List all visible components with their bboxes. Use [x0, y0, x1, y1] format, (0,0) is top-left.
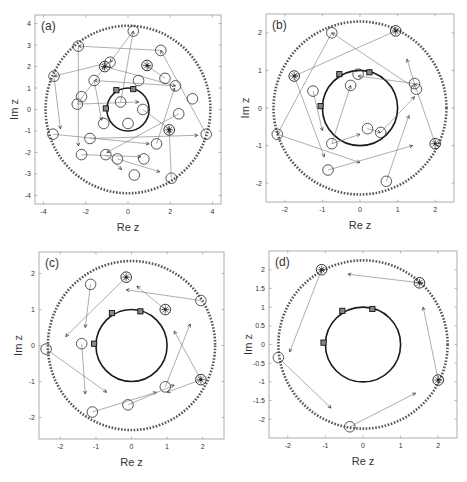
panel-b: -2-1012-2-1012Re zIm z(b) [239, 14, 454, 231]
y-tick-label: 1 [258, 67, 262, 74]
x-tick-label: -2 [57, 443, 63, 450]
asterisk-center [103, 65, 106, 68]
y-tick-label: 0 [31, 342, 35, 349]
y-tick-label: -2 [29, 414, 35, 421]
axes-box [269, 251, 457, 438]
y-tick-label: 4 [27, 20, 31, 27]
y-tick-label: 1 [31, 306, 35, 313]
y-axis-label: Im z [8, 99, 20, 120]
asterisk-center [418, 281, 421, 284]
y-tick-label: 1 [261, 304, 265, 311]
square-marker [318, 104, 323, 109]
axes-box [266, 14, 454, 202]
y-tick-label: 2 [258, 29, 262, 36]
asterisk-center [168, 129, 171, 132]
asterisk-center [320, 268, 323, 271]
x-tick-label: 0 [358, 206, 362, 213]
square-marker [92, 341, 97, 346]
asterisk-center [293, 75, 296, 78]
panel-c: -2-1012-2-1012Re zIm z(c) [12, 252, 224, 468]
y-tick-label: -0.5 [253, 360, 265, 367]
square-marker [131, 86, 136, 91]
x-tick-label: -1 [319, 206, 325, 213]
asterisk-center [125, 276, 128, 279]
panel-label: (b) [272, 18, 287, 32]
x-tick-label: -2 [285, 442, 291, 449]
panel-a: -4-2024-4-3-2-101234Re zIm z(a) [8, 15, 221, 233]
asterisk-center [394, 30, 397, 33]
y-tick-label: -1 [25, 127, 31, 134]
x-axis-label: Re z [349, 219, 372, 231]
square-marker [103, 106, 108, 111]
y-tick-label: -2 [256, 180, 262, 187]
asterisk-center [434, 142, 437, 145]
square-marker [340, 308, 345, 313]
y-tick-label: 0 [261, 341, 265, 348]
asterisk-center [164, 308, 167, 311]
y-tick-label: -2 [259, 416, 265, 423]
x-axis-label: Re z [120, 456, 143, 468]
x-tick-label: 2 [168, 208, 172, 215]
y-tick-label: 0.5 [255, 322, 265, 329]
axes-box [39, 252, 224, 439]
y-tick-label: -2 [25, 149, 31, 156]
x-axis-label: Re z [352, 455, 375, 467]
y-tick-label: 0 [258, 105, 262, 112]
y-tick-label: -1 [259, 378, 265, 385]
x-tick-label: 0 [130, 443, 134, 450]
x-tick-label: 0 [361, 442, 365, 449]
figure: -4-2024-4-3-2-101234Re zIm z(a) -2-1012-… [0, 0, 467, 482]
y-tick-label: -3 [25, 170, 31, 177]
y-axis-label: Im z [242, 334, 254, 355]
y-axis-label: Im z [12, 335, 24, 356]
square-marker [109, 311, 114, 316]
y-tick-label: -1 [256, 142, 262, 149]
x-tick-label: 1 [399, 442, 403, 449]
square-marker [337, 72, 342, 77]
y-tick-label: 0 [27, 106, 31, 113]
y-tick-label: 3 [27, 42, 31, 49]
x-tick-label: -2 [83, 208, 89, 215]
x-tick-label: 1 [165, 443, 169, 450]
y-tick-label: -4 [25, 192, 31, 199]
x-tick-label: 0 [126, 208, 130, 215]
y-tick-label: -1 [29, 378, 35, 385]
x-tick-label: 2 [433, 206, 437, 213]
y-axis-label: Im z [239, 98, 251, 119]
panel-label: (c) [45, 256, 59, 270]
y-tick-label: 2 [27, 63, 31, 70]
asterisk-center [200, 378, 203, 381]
y-tick-label: 1.5 [255, 285, 265, 292]
x-tick-label: -1 [322, 442, 328, 449]
y-tick-label: 2 [261, 266, 265, 273]
asterisk-center [437, 379, 440, 382]
square-marker [367, 70, 372, 75]
x-tick-label: -1 [93, 443, 99, 450]
panel-label: (d) [275, 255, 290, 269]
x-tick-label: 4 [211, 208, 215, 215]
x-tick-label: 2 [436, 442, 440, 449]
asterisk-center [146, 64, 149, 67]
square-marker [370, 306, 375, 311]
x-tick-label: 1 [396, 206, 400, 213]
square-marker [114, 88, 119, 93]
y-tick-label: -1.5 [253, 397, 265, 404]
x-tick-label: 2 [201, 443, 205, 450]
y-tick-label: 1 [27, 85, 31, 92]
x-tick-label: -2 [282, 206, 288, 213]
square-marker [321, 340, 326, 345]
y-tick-label: 2 [31, 270, 35, 277]
square-marker [138, 309, 143, 314]
x-tick-label: -4 [40, 208, 46, 215]
x-axis-label: Re z [117, 221, 140, 233]
panel-label: (a) [41, 19, 56, 33]
panel-d: -2-1012-2-1.5-1-0.500.511.52Re zIm z(d) [242, 251, 457, 467]
